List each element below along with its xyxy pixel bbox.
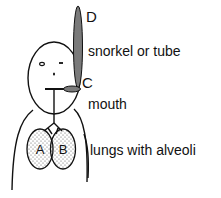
- label-snorkel-or-tube: snorkel or tube: [88, 43, 181, 59]
- label-mouth: mouth: [88, 96, 127, 112]
- lung-a-label: A: [36, 142, 45, 157]
- lung-a: A: [27, 129, 53, 169]
- snorkel-mouthpiece: [64, 86, 81, 92]
- label-lungs-with-alveoli: lungs with alveoli: [90, 142, 196, 158]
- lung-b: B: [51, 129, 76, 169]
- label-c: C: [82, 74, 93, 91]
- left-eye: [40, 62, 45, 65]
- lung-b-label: B: [59, 142, 68, 157]
- snorkel-breathing-diagram: A B D snorkel or tube C mouth lungs with…: [0, 0, 221, 198]
- nose: [53, 72, 55, 75]
- label-d: D: [86, 8, 97, 25]
